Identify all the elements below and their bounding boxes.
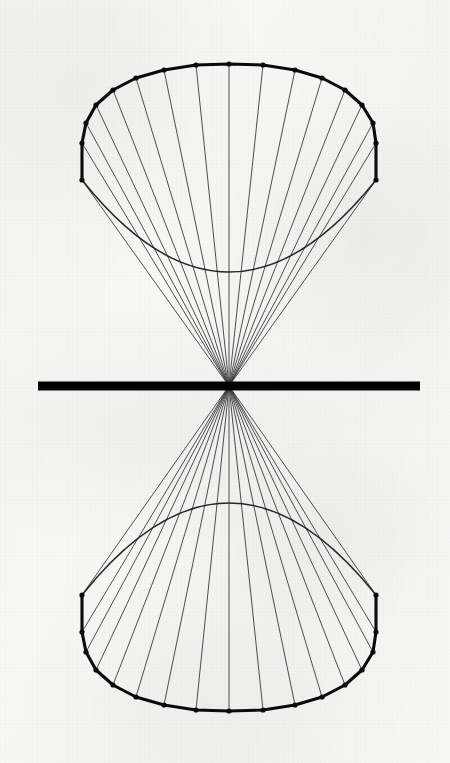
rim-vertex-dot	[133, 75, 138, 80]
rim-vertex-dot	[79, 177, 84, 182]
ruling-line	[229, 105, 362, 386]
ruling-line	[229, 123, 373, 386]
ruling-line	[229, 386, 345, 685]
rim-vertex-dot	[260, 707, 265, 712]
rim-vertex-dot	[342, 682, 347, 687]
rim-vertex-dot	[193, 62, 198, 67]
ruling-line	[136, 78, 229, 386]
ruling-line	[229, 386, 322, 697]
ruling-line	[113, 386, 229, 685]
upper-nappe-group	[79, 61, 378, 386]
rim-vertex-dot	[359, 667, 364, 672]
ruling-line	[136, 386, 229, 697]
rim-vertex-dot	[342, 87, 347, 92]
rim-vertex-dot	[292, 702, 297, 707]
rim-vertex-dot	[83, 649, 88, 654]
upper-ruling-lines	[82, 64, 376, 386]
rim-vertex-dot	[83, 120, 88, 125]
rim-vertex-dot	[319, 694, 324, 699]
figure-root	[0, 0, 450, 763]
ruling-line	[229, 180, 376, 386]
rim-vertex-dot	[373, 177, 378, 182]
rim-vertex-dot	[79, 140, 84, 145]
rim-vertex-dot	[359, 102, 364, 107]
rim-vertex-dot	[110, 682, 115, 687]
lower-nappe-group	[79, 386, 378, 714]
ruling-line	[229, 70, 295, 386]
double-cone-diagram	[0, 0, 450, 763]
rim-vertex-dot	[161, 702, 166, 707]
ruling-line	[229, 386, 295, 705]
rim-vertex-dot	[370, 120, 375, 125]
ruling-line	[82, 386, 229, 595]
rim-vertex-dot	[319, 75, 324, 80]
rim-vertex-dot	[93, 667, 98, 672]
ruling-line	[82, 180, 229, 386]
rim-vertex-dot	[193, 707, 198, 712]
ruling-line	[96, 386, 229, 670]
ruling-line	[229, 90, 345, 386]
ruling-line	[113, 90, 229, 386]
ruling-line	[96, 105, 229, 386]
rim-vertex-dot	[93, 102, 98, 107]
rim-vertex-dot	[226, 61, 231, 66]
ruling-line	[82, 143, 229, 386]
rim-vertex-dot	[79, 592, 84, 597]
rim-vertex-dot	[373, 140, 378, 145]
rim-vertex-dot	[79, 629, 84, 634]
rim-vertex-dot	[133, 694, 138, 699]
rim-vertex-dot	[260, 62, 265, 67]
ruling-line	[229, 78, 322, 386]
ruling-line	[196, 65, 229, 386]
rim-vertex-dot	[110, 87, 115, 92]
ruling-line	[229, 386, 373, 652]
ruling-line	[164, 386, 229, 705]
rim-vertex-dot	[370, 649, 375, 654]
rim-vertex-dot	[373, 592, 378, 597]
ruling-line	[196, 386, 229, 710]
ruling-line	[86, 123, 229, 386]
ruling-line	[164, 70, 229, 386]
rim-vertex-dot	[161, 67, 166, 72]
ruling-line	[86, 386, 229, 652]
ruling-line	[229, 386, 362, 670]
rim-vertex-dot	[373, 629, 378, 634]
rim-vertex-dot	[226, 708, 231, 713]
rim-vertex-dot	[292, 67, 297, 72]
ruling-line	[82, 386, 229, 632]
